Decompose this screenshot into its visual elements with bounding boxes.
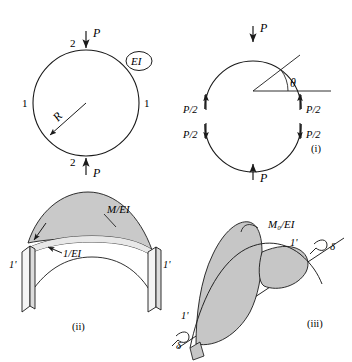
panel-ii-caption: (ii) bbox=[72, 321, 85, 333]
panel-ii-reference-arc bbox=[26, 257, 156, 302]
ring-node-label-left: 1 bbox=[22, 97, 28, 109]
panel-iii-deflection-label-right: δ bbox=[330, 240, 336, 252]
panel-ii-end-label-left: 1' bbox=[9, 259, 17, 270]
panel-ring: P 2 2 P 1 1 R EI bbox=[22, 26, 152, 180]
panel-iii-deflection-label-left: δ bbox=[176, 339, 182, 351]
ring-load-label-top: P bbox=[92, 26, 101, 40]
panel-ii-unit-label: 1/EI bbox=[63, 248, 82, 259]
panel-ii-end-label-right: 1' bbox=[163, 259, 171, 270]
panel-i-load-label-bottom: P bbox=[259, 171, 268, 185]
panel-i-shear-label-right-up: P/2 bbox=[305, 104, 321, 115]
panel-iii-end-label-right: 1' bbox=[290, 237, 298, 248]
panel-i-shear-label-left-up: P/2 bbox=[182, 104, 198, 115]
panel-i-caption: (i) bbox=[311, 143, 321, 155]
ring-node-label-right: 1 bbox=[144, 97, 150, 109]
panel-i-shear-label-left-down: P/2 bbox=[182, 129, 198, 140]
panel-iii: M₀/EI 1' 1' δ δ (iii) bbox=[172, 218, 344, 360]
engineering-figure-svg: P 2 2 P 1 1 R EI bbox=[0, 0, 352, 362]
ring-stiffness-label: EI bbox=[130, 55, 143, 67]
ring-radius-label: R bbox=[49, 109, 65, 125]
panel-iii-moment-region-right bbox=[259, 246, 308, 288]
figure-root: P 2 2 P 1 1 R EI bbox=[0, 0, 352, 362]
panel-i-angle-label: θ bbox=[290, 76, 296, 90]
panel-iii-caption: (iii) bbox=[307, 318, 323, 330]
ring-node-label-top: 2 bbox=[70, 37, 76, 49]
panel-iii-moment-region-left bbox=[196, 222, 262, 345]
panel-ii-end-block-left bbox=[22, 246, 35, 312]
panel-ii: M/EI 1/EI 1' 1' (ii) bbox=[9, 192, 171, 333]
panel-i-shear-label-right-down: P/2 bbox=[305, 129, 321, 140]
panel-iii-moment-label: M₀/EI bbox=[267, 218, 296, 230]
panel-i: P P θ P/2 P/2 P/2 P/2 (i) bbox=[182, 21, 331, 185]
panel-i-load-label-top: P bbox=[259, 21, 268, 35]
panel-ii-unit-leader-lower bbox=[48, 247, 62, 253]
panel-iii-rotation-symbol-right bbox=[310, 240, 327, 254]
ring-node-label-bottom: 2 bbox=[70, 156, 76, 168]
ring-load-label-bottom: P bbox=[92, 166, 101, 180]
panel-ii-end-block-right bbox=[148, 247, 161, 312]
panel-ii-moment-label: M/EI bbox=[106, 203, 131, 215]
panel-i-upper-arc bbox=[205, 61, 301, 109]
panel-iii-end-label-left: 1' bbox=[181, 310, 189, 321]
